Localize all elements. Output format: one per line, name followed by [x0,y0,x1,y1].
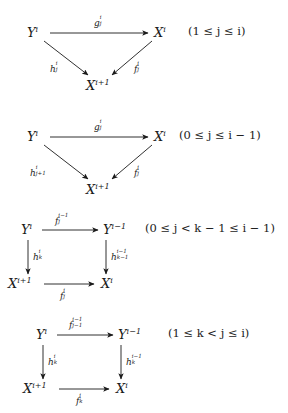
commutative-diagram-4: Yi Yi−1 Xi+1 Xi fi−1j−1 hik hi−1k fik (1… [0,313,288,413]
arrow-right-diagonal [112,145,152,179]
node-target: Xi [154,26,166,39]
commutative-diagram-3: Yi Yi−1 Xi+1 Xi fi−1j hik hi−1k−1 fij (0… [0,208,288,313]
condition-range: (1 ≤ j ≤ i) [188,26,245,38]
label-bottom-arrow: fik [76,394,83,406]
diagram-1-arrows [0,0,288,105]
condition-range: (0 ≤ j ≤ i − 1) [179,130,261,142]
node-bottom-left: Xi+1 [8,277,32,290]
label-left-arrow: hij [50,62,58,74]
node-source: Yi [27,130,38,143]
arrow-left-diagonal [44,145,88,179]
label-top-arrow: fi−1j−1 [69,318,82,330]
label-right-arrow: fij [134,62,139,74]
label-left-arrow: hik [33,250,42,262]
label-right-arrow: hi−1k [126,355,142,367]
node-bottom-right: Xi [116,382,128,395]
node-apex: Xi+1 [86,79,110,92]
node-bottom-left: Xi+1 [23,382,47,395]
condition-range: (0 ≤ j < k − 1 ≤ i − 1) [145,223,275,235]
node-source: Yi [27,26,38,39]
label-right-arrow: fij [134,166,139,178]
node-top-right: Yi−1 [103,223,126,236]
label-left-arrow: hik [48,355,57,367]
arrow-right-diagonal [112,41,152,75]
label-left-arrow: hij+1 [30,166,46,178]
label-right-arrow: hi−1k−1 [111,250,128,262]
label-top-arrow: fi−1j [55,214,68,226]
label-top-arrow: gij [94,120,102,132]
label-bottom-arrow: fij [60,289,65,301]
node-top-left: Yi [36,328,47,341]
node-top-right: Yi−1 [118,328,141,341]
node-target: Xi [154,130,166,143]
commutative-diagram-1: Yi Xi Xi+1 gij hij fij (1 ≤ j ≤ i) [0,0,288,105]
commutative-diagram-2: Yi Xi Xi+1 gij hij+1 fij (0 ≤ j ≤ i − 1) [0,105,288,208]
node-bottom-right: Xi [101,277,113,290]
node-top-left: Yi [21,223,32,236]
condition-range: (1 ≤ k < j ≤ i) [168,328,249,340]
node-apex: Xi+1 [86,183,110,196]
diagram-2-arrows [0,105,288,208]
label-top-arrow: gij [94,16,102,28]
